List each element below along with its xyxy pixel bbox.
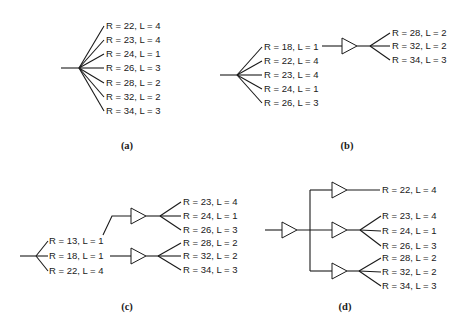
sink-label: R = 26, L = 3 [382, 240, 437, 251]
sink-label: R = 32, L = 2 [382, 266, 437, 277]
sink-label: R = 34, L = 3 [392, 54, 447, 65]
sink-label: R = 32, L = 2 [392, 40, 447, 51]
caption-c: (c) [121, 301, 133, 313]
sink-label: R = 23, L = 4 [382, 210, 437, 221]
sink-label: R = 22, L = 4 [382, 184, 437, 195]
sink-label: R = 13, L = 1 [49, 235, 104, 246]
sink-label: R = 28, L = 2 [106, 77, 161, 88]
sink-label: R = 23, L = 4 [183, 196, 238, 207]
panel-a: R = 22, L = 4 R = 23, L = 4 R = 24, L = … [61, 20, 161, 153]
buffer-insertion-figure: R = 22, L = 4 R = 23, L = 4 R = 24, L = … [0, 0, 459, 327]
caption-b: (b) [341, 140, 354, 152]
panel-b: R = 18, L = 1 R = 22, L = 4 R = 23, L = … [220, 27, 447, 153]
caption-d: (d) [339, 301, 352, 313]
sink-label: R = 23, L = 4 [106, 34, 161, 45]
buffer-icon [131, 248, 146, 264]
fanout-branches [237, 47, 262, 103]
sink-label: R = 24, L = 1 [106, 48, 161, 59]
buffer-icon [131, 208, 146, 224]
buffer-icon [332, 182, 347, 198]
caption-a: (a) [121, 140, 134, 152]
sink-label: R = 22, L = 4 [49, 265, 104, 276]
buffer-icon [332, 222, 347, 238]
buffer-icon [282, 222, 297, 238]
sink-label: R = 26, L = 3 [264, 97, 319, 108]
sink-label: R = 23, L = 4 [264, 69, 319, 80]
sink-label: R = 22, L = 4 [106, 20, 161, 31]
sink-label: R = 26, L = 3 [106, 62, 161, 73]
sink-label: R = 22, L = 4 [264, 55, 319, 66]
sink-label: R = 24, L = 1 [382, 225, 437, 236]
buffer-icon [342, 38, 357, 54]
sink-label: R = 18, L = 1 [264, 41, 319, 52]
sink-label: R = 28, L = 2 [392, 27, 447, 38]
panel-c: R = 13, L = 1 R = 18, L = 1 R = 22, L = … [20, 196, 238, 314]
sink-label: R = 24, L = 1 [183, 210, 238, 221]
sink-label: R = 34, L = 3 [382, 280, 437, 291]
fanout-branches [79, 26, 104, 111]
sink-label: R = 18, L = 1 [49, 250, 104, 261]
sink-label: R = 34, L = 3 [183, 264, 238, 275]
sink-label: R = 28, L = 2 [183, 237, 238, 248]
sink-label: R = 32, L = 2 [183, 250, 238, 261]
sink-label: R = 28, L = 2 [382, 252, 437, 263]
sink-label: R = 32, L = 2 [106, 91, 161, 102]
sink-label: R = 24, L = 1 [264, 83, 319, 94]
sink-label: R = 34, L = 3 [106, 105, 161, 116]
panel-d: R = 22, L = 4 R = 23, L = 4 R = 24, L = … [265, 182, 437, 313]
diagram-svg: R = 22, L = 4 R = 23, L = 4 R = 24, L = … [0, 0, 459, 327]
buffer-icon [332, 263, 347, 279]
sink-label: R = 26, L = 3 [183, 224, 238, 235]
